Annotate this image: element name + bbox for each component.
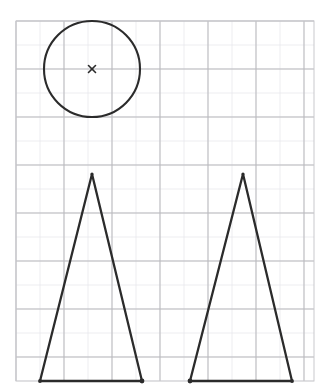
vertex-dot <box>140 379 145 384</box>
vertex-dot <box>241 172 244 175</box>
vertex-dot <box>38 379 42 383</box>
figure-svg <box>0 0 331 388</box>
drawing-canvas: Hand-drawn geometry worksheet on graph p… <box>0 0 331 388</box>
center-dot <box>91 68 94 71</box>
vertex-dot <box>90 172 93 175</box>
vertex-dot <box>188 379 193 384</box>
canvas-background <box>0 0 331 388</box>
vertex-dot <box>290 379 294 383</box>
